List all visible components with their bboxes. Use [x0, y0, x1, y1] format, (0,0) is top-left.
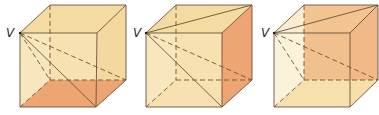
vertex-label: V	[6, 26, 15, 40]
vertex-label: V	[133, 26, 142, 40]
cube-diagram: V V	[0, 0, 379, 115]
cube-front-face	[274, 33, 350, 107]
apex-point	[145, 32, 147, 34]
apex-point	[273, 32, 275, 34]
cube-2: V	[133, 5, 252, 107]
cube-3: V	[261, 5, 378, 107]
vertex-label: V	[261, 26, 270, 40]
cube-1: V	[6, 5, 126, 107]
apex-point	[19, 32, 21, 34]
